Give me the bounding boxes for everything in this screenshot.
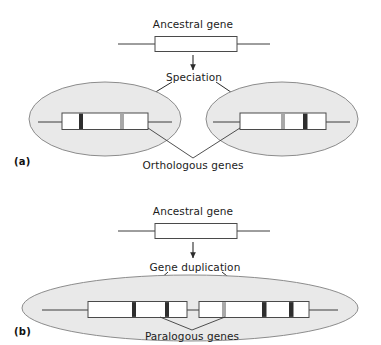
panel-b-ancestral-gene-label: Ancestral gene <box>153 205 233 217</box>
panel-a-speciation-label: Speciation <box>166 71 222 83</box>
panel-b-gene-duplication-label: Gene duplication <box>150 261 241 273</box>
species-2-ellipse <box>206 82 358 156</box>
panel-a-ancestral-gene <box>118 37 270 52</box>
panel-a-ancestral-gene-label: Ancestral gene <box>153 18 233 30</box>
panel-b-paralogous-genes-label: Paralogous genes <box>145 330 239 342</box>
panel-a-tag: (a) <box>14 156 31 167</box>
panel-b-tag: (b) <box>14 326 31 337</box>
panel-a-orthologous-genes-label: Orthologous genes <box>142 159 243 171</box>
panel-b-ancestral-gene <box>118 224 270 239</box>
figure-graphics <box>0 0 381 345</box>
gene-homology-figure: Ancestral gene Speciation Orthologous ge… <box>0 0 381 345</box>
species-1-ellipse <box>29 82 181 156</box>
